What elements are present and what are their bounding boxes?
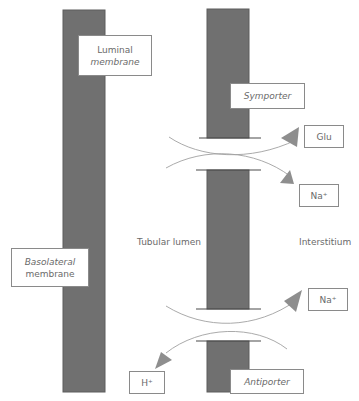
- basolateral-label-line2: membrane: [25, 268, 74, 280]
- na-symporter-label: Na⁺: [299, 184, 339, 207]
- glu-label-text: Glu: [316, 131, 331, 143]
- na-antiporter-label: Na⁺: [308, 288, 348, 311]
- na-symporter-arrowhead-icon: [280, 170, 294, 184]
- basolateral-label-line1: Basolateral: [25, 256, 76, 268]
- na-symporter-label-text: Na⁺: [311, 190, 328, 202]
- symporter-label-text: Symporter: [244, 90, 292, 102]
- luminal-membrane-label: Luminal membrane: [78, 35, 152, 76]
- luminal-label-line2: membrane: [90, 56, 139, 68]
- glu-arrowhead-icon: [281, 127, 299, 147]
- luminal-label-line1: Luminal: [97, 44, 133, 56]
- glu-label: Glu: [304, 125, 344, 148]
- antiporter-label: Antiporter: [230, 369, 304, 394]
- glu-arrow-path: [169, 137, 296, 155]
- na-antiporter-label-text: Na⁺: [320, 294, 337, 306]
- na-antiporter-arrowhead-icon: [284, 290, 302, 312]
- luminal-membrane-top-segment: [207, 9, 249, 138]
- h-label: H⁺: [129, 371, 165, 394]
- h-arrowhead-icon: [155, 352, 172, 369]
- symporter-label: Symporter: [230, 83, 305, 109]
- h-label-text: H⁺: [141, 377, 153, 389]
- tubular-lumen-label: Tubular lumen: [137, 237, 201, 247]
- interstitium-label: Interstitium: [299, 237, 351, 247]
- luminal-membrane-middle-segment: [207, 170, 249, 309]
- antiporter-label-text: Antiporter: [244, 376, 290, 388]
- basolateral-membrane-label: Basolateral membrane: [11, 248, 89, 287]
